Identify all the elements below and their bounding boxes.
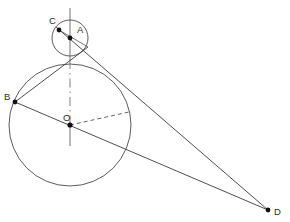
- dashed-radius-O: [70, 112, 129, 125]
- point-A-marker: [68, 36, 73, 41]
- chord-C-A: [59, 30, 88, 47]
- line-C-to-D: [56, 27, 268, 210]
- point-label-C: C: [49, 15, 56, 26]
- line-B-O-D: [15, 102, 268, 210]
- point-label-O: O: [63, 112, 70, 123]
- geometry-diagram: A C B O D: [0, 0, 290, 222]
- point-label-A: A: [77, 24, 84, 35]
- figure-canvas: A C B O D: [0, 0, 290, 222]
- point-label-D: D: [274, 206, 281, 217]
- point-C-marker: [57, 28, 62, 33]
- line-B-to-circle-A-tangent: [15, 47, 88, 102]
- point-D-marker: [266, 208, 271, 213]
- point-B-marker: [13, 100, 18, 105]
- point-O-marker: [67, 122, 72, 127]
- point-label-B: B: [4, 91, 10, 102]
